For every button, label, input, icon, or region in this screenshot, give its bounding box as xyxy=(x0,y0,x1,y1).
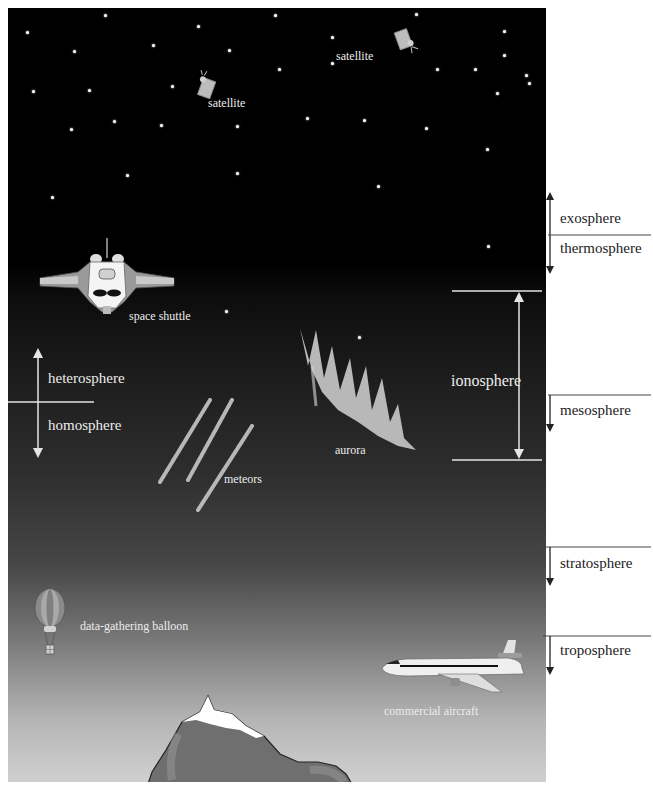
star xyxy=(274,14,277,17)
satellite-icon xyxy=(392,24,422,54)
aircraft-label: commercial aircraft xyxy=(384,704,478,719)
star xyxy=(73,50,76,53)
star xyxy=(503,54,506,57)
meteors-shape xyxy=(148,396,258,516)
star xyxy=(104,14,107,17)
composition-bracket xyxy=(8,346,98,460)
star xyxy=(363,119,366,122)
layer-label-exosphere: exosphere xyxy=(560,210,621,227)
star xyxy=(113,120,116,123)
star xyxy=(228,49,231,52)
star xyxy=(171,85,174,88)
star xyxy=(197,25,200,28)
star xyxy=(306,117,309,120)
star xyxy=(51,196,54,199)
layer-label-thermosphere: thermosphere xyxy=(560,240,642,257)
star xyxy=(225,310,228,313)
star xyxy=(160,124,163,127)
star xyxy=(32,90,35,93)
atmosphere-scene: satellite satellite space shuttle aurora xyxy=(8,8,546,782)
star xyxy=(126,174,129,177)
layer-label-troposphere: troposphere xyxy=(560,642,631,659)
star xyxy=(503,30,506,33)
aurora-label: aurora xyxy=(335,443,366,458)
homosphere-label: homosphere xyxy=(48,417,121,434)
heterosphere-label: heterosphere xyxy=(48,370,125,387)
exo-thermo-bracket xyxy=(543,190,653,276)
balloon-icon xyxy=(34,588,68,664)
aurora-shape xyxy=(298,326,418,454)
star xyxy=(278,68,281,71)
balloon-label: data-gathering balloon xyxy=(80,619,188,634)
ionosphere-label: ionosphere xyxy=(451,372,521,390)
star xyxy=(496,92,499,95)
layer-label-stratosphere: stratosphere xyxy=(560,555,632,572)
star xyxy=(528,82,531,85)
star xyxy=(88,89,91,92)
star xyxy=(331,62,334,65)
star xyxy=(487,245,490,248)
star xyxy=(377,185,380,188)
star xyxy=(474,68,477,71)
star xyxy=(331,36,334,39)
star xyxy=(236,172,239,175)
star xyxy=(236,125,239,128)
layer-label-mesosphere: mesosphere xyxy=(560,402,631,419)
star xyxy=(525,74,528,77)
space-shuttle-icon xyxy=(30,236,180,316)
space-shuttle-label: space shuttle xyxy=(129,309,191,324)
star xyxy=(70,128,73,131)
star xyxy=(152,44,155,47)
satellite-label-2: satellite xyxy=(336,49,373,64)
star xyxy=(486,148,489,151)
star xyxy=(26,31,29,34)
star xyxy=(436,68,439,71)
mountain-shape xyxy=(138,692,378,782)
commercial-aircraft-icon xyxy=(378,638,528,694)
meteors-label: meteors xyxy=(224,472,262,487)
satellite-label-1: satellite xyxy=(208,96,245,111)
star xyxy=(425,127,428,130)
star xyxy=(415,13,418,16)
